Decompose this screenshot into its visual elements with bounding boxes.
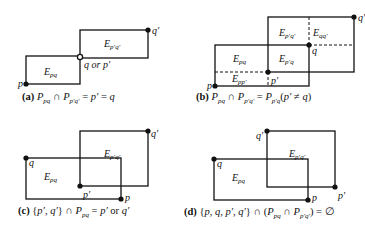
label-c-q: q <box>29 157 34 168</box>
label-c-p: p <box>124 192 130 203</box>
point-a-p <box>23 81 28 86</box>
label-b-epq: Epq <box>232 53 247 66</box>
point-a-qprime <box>145 27 150 32</box>
point-c-q <box>23 155 28 160</box>
label-a-qprime: q′ <box>152 25 160 36</box>
label-c-epq: Epq <box>43 171 58 184</box>
caption-b: (b) Ppq ∩ Pp′q′ = Pp′q(p′ ≠ q) <box>196 91 311 105</box>
label-b-eppprime: Epp′ <box>231 73 247 86</box>
figure-canvas: p q or p′ q′ Epq Ep′q′ p p′ q q′ Epq Ep′… <box>0 0 365 233</box>
caption-c: (c) {p′, q′} ∩ Ppq = p′ or q′ <box>18 205 129 219</box>
label-a-q-or-pprime: q or p′ <box>84 59 111 70</box>
point-b-q <box>306 42 311 47</box>
region-a-epq <box>26 56 80 84</box>
label-d-epq: Epq <box>231 172 246 185</box>
label-a-epq: Epq <box>43 66 58 79</box>
label-b-epqprime: Ep′q′ <box>278 27 296 40</box>
label-b-eqqprime: Eqq′ <box>312 27 328 40</box>
point-d-pprime <box>332 184 337 189</box>
label-d-p: p <box>311 192 317 203</box>
caption-d: (d) {p, q, p′, q′} ∩ (Ppq ∩ Pp′q′) = ∅ <box>184 205 335 220</box>
region-d-epq <box>214 159 308 200</box>
point-c-p <box>118 196 123 201</box>
label-d-pprime: p′ <box>337 190 346 201</box>
label-b-pprime: p′ <box>270 75 279 86</box>
point-c-pprime <box>77 183 82 188</box>
label-c-epqprime: Ep′q′ <box>103 148 121 161</box>
label-c-pprime: p′ <box>82 189 91 200</box>
point-c-qprime <box>145 128 150 133</box>
point-b-qprime <box>351 14 356 19</box>
region-c-epq <box>26 158 121 199</box>
point-b-p <box>212 83 217 88</box>
label-a-epqprime: Ep′q′ <box>103 38 121 51</box>
label-b-qprime: q′ <box>358 12 365 23</box>
label-b-epprimeq: Ep′q <box>278 53 294 66</box>
label-d-qprime: q′ <box>256 130 264 141</box>
region-b-epq <box>215 45 309 86</box>
label-d-q: q <box>217 158 222 169</box>
point-d-q <box>211 156 216 161</box>
point-a-q-or-pprime <box>77 54 82 59</box>
point-d-p <box>305 197 310 202</box>
label-b-p: p <box>206 80 212 91</box>
label-a-p: p <box>17 78 23 89</box>
label-c-qprime: q′ <box>151 128 159 139</box>
label-b-q: q <box>312 45 317 56</box>
caption-a: (a) Ppq ∩ Pp′q′ = p′ = q <box>22 91 115 105</box>
point-d-qprime <box>264 128 269 133</box>
point-b-pprime <box>265 69 270 74</box>
